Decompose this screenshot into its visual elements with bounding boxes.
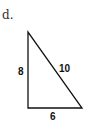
triangle-outline [28,32,82,108]
side-label-bottom: 6 [50,112,56,122]
side-label-left: 8 [18,67,24,77]
side-label-hypotenuse: 10 [59,64,70,74]
right-triangle [0,0,85,123]
